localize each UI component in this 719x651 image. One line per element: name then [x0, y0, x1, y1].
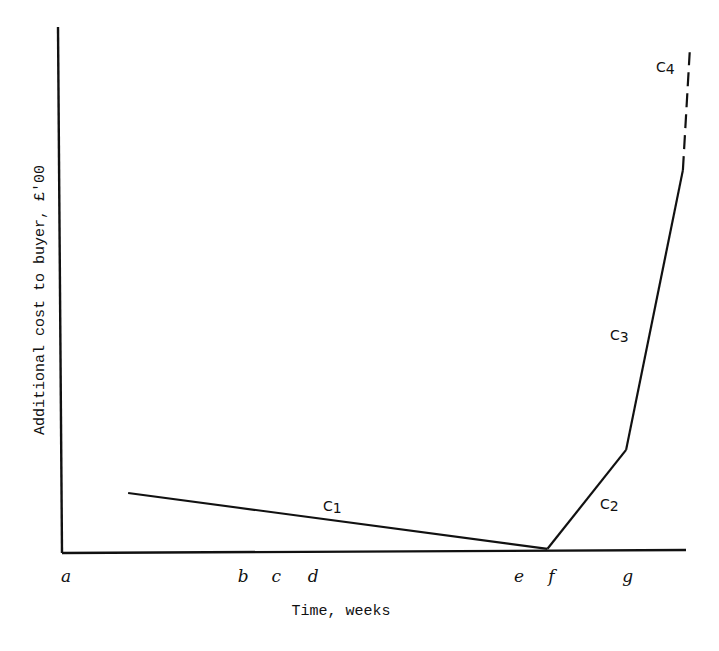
x-tick-label-c: c: [272, 566, 282, 586]
x-tick-label-b: b: [238, 566, 249, 586]
x-tick-label-d: d: [308, 566, 319, 586]
x-axis: [62, 550, 686, 553]
cost-time-chart: abcdefg C1C2C3C4 Time, weeks Additional …: [0, 0, 719, 651]
x-axis-title: Time, weeks: [291, 603, 390, 620]
x-tick-label-f: f: [546, 566, 557, 586]
x-tick-label-g: g: [622, 566, 633, 586]
curve-label-c4: C4: [656, 59, 675, 77]
x-tick-label-e: e: [514, 566, 524, 586]
curve-c3: [626, 170, 683, 450]
curve-label-c3: C3: [610, 327, 629, 345]
x-tick-label-a: a: [61, 566, 71, 586]
curve-labels: C1C2C3C4: [323, 59, 675, 516]
curve-c4: [683, 52, 690, 170]
curve-label-c1: C1: [323, 498, 342, 516]
y-axis: [58, 27, 62, 553]
y-axis-title: Additional cost to buyer, £'00: [32, 165, 49, 435]
x-tick-labels: abcdefg: [61, 566, 633, 586]
curve-label-c2: C2: [600, 496, 619, 514]
curves-group: [128, 52, 690, 549]
